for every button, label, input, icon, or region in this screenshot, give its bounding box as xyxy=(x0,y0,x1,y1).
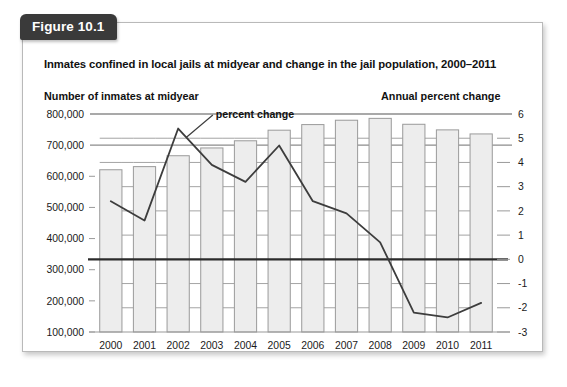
svg-text:3: 3 xyxy=(518,181,524,192)
svg-text:5: 5 xyxy=(518,133,524,144)
right-axis-ticks: 6543210-1-2-3 xyxy=(497,109,527,338)
svg-text:200,000: 200,000 xyxy=(46,296,84,307)
svg-text:-2: -2 xyxy=(518,302,527,313)
svg-text:300,000: 300,000 xyxy=(46,264,84,275)
svg-text:2: 2 xyxy=(518,206,524,217)
svg-text:4: 4 xyxy=(518,157,524,168)
svg-text:percent change: percent change xyxy=(216,108,294,120)
left-axis-ticks: 800,000700,000600,000500,000400,000300,0… xyxy=(46,109,95,338)
figure-root: Figure 10.1 Inmates confined in local ja… xyxy=(0,0,567,387)
svg-text:2005: 2005 xyxy=(268,340,291,351)
svg-text:800,000: 800,000 xyxy=(46,109,84,120)
svg-text:500,000: 500,000 xyxy=(46,202,84,213)
svg-text:2007: 2007 xyxy=(335,340,358,351)
svg-text:2006: 2006 xyxy=(301,340,324,351)
svg-text:400,000: 400,000 xyxy=(46,233,84,244)
svg-text:2010: 2010 xyxy=(436,340,459,351)
x-axis-ticks: 2000200120022003200420052006200720082009… xyxy=(89,332,510,351)
svg-text:2009: 2009 xyxy=(402,340,425,351)
chart-title: Inmates confined in local jails at midye… xyxy=(44,58,496,70)
svg-text:100,000: 100,000 xyxy=(46,327,84,338)
svg-text:6: 6 xyxy=(518,109,524,120)
svg-text:0: 0 xyxy=(518,254,524,265)
svg-text:2001: 2001 xyxy=(133,340,156,351)
svg-text:600,000: 600,000 xyxy=(46,171,84,182)
chart-plot-area: 800,000700,000600,000500,000400,000300,0… xyxy=(22,100,543,355)
svg-text:700,000: 700,000 xyxy=(46,140,84,151)
figure-number-tab: Figure 10.1 xyxy=(20,14,117,40)
svg-text:-1: -1 xyxy=(518,278,527,289)
svg-text:2003: 2003 xyxy=(200,340,223,351)
svg-text:2002: 2002 xyxy=(167,340,190,351)
percent-change-line xyxy=(111,129,481,318)
svg-text:2011: 2011 xyxy=(470,340,493,351)
svg-text:1: 1 xyxy=(518,230,524,241)
bars-group xyxy=(100,118,493,332)
svg-text:-3: -3 xyxy=(518,327,527,338)
svg-text:2004: 2004 xyxy=(234,340,257,351)
svg-text:2008: 2008 xyxy=(369,340,392,351)
svg-text:2000: 2000 xyxy=(99,340,122,351)
